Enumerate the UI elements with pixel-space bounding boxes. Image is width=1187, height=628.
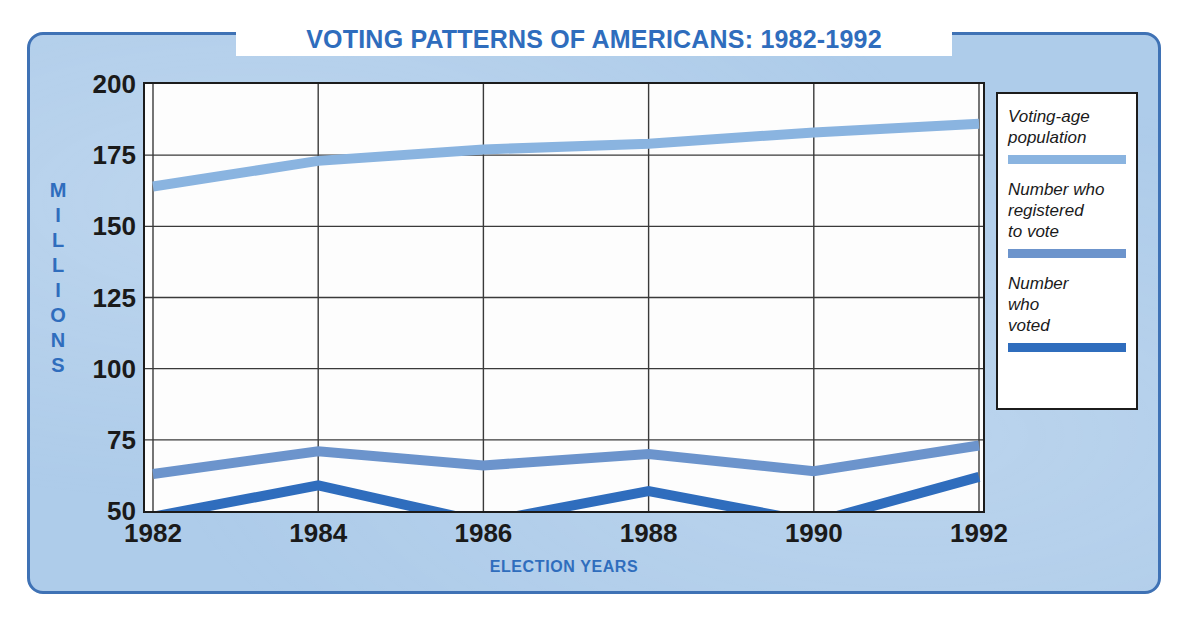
legend-color-swatch <box>1008 155 1126 164</box>
legend-label-line: voted <box>1008 315 1126 336</box>
y-axis-tick-label: 125 <box>74 282 136 313</box>
y-axis-title-letter: I <box>55 278 61 303</box>
legend-item-registered-to-vote[interactable]: Number who registered to vote <box>1008 179 1126 258</box>
x-axis-tick-label: 1982 <box>124 518 182 549</box>
y-axis-title-letter: L <box>52 253 64 278</box>
x-axis-tick-label: 1986 <box>454 518 512 549</box>
legend-label: Voting-age population <box>1008 106 1126 148</box>
legend-label: Number who registered to vote <box>1008 179 1126 242</box>
plot-area <box>143 82 985 513</box>
x-axis-tick-label: 1992 <box>950 518 1008 549</box>
y-axis-tick-label: 150 <box>74 211 136 242</box>
y-axis-tick-label: 100 <box>74 353 136 384</box>
legend-label-line: to vote <box>1008 221 1126 242</box>
data-series-group <box>153 124 979 511</box>
y-axis-title-letter: S <box>51 353 64 378</box>
x-axis-tick-labels: 198219841986198819901992 <box>143 518 985 554</box>
y-axis-title-letter: O <box>50 303 66 328</box>
chart-figure: VOTING PATTERNS OF AMERICANS: 1982-1992 … <box>0 0 1187 628</box>
y-axis-title-letter: L <box>52 228 64 253</box>
x-axis-tick-label: 1990 <box>785 518 843 549</box>
y-axis-tick-label: 200 <box>74 69 136 100</box>
chart-title-banner: VOTING PATTERNS OF AMERICANS: 1982-1992 <box>236 22 952 56</box>
y-axis-tick-label: 175 <box>74 140 136 171</box>
legend-label-line: registered <box>1008 200 1126 221</box>
chart-svg <box>145 84 983 511</box>
legend-color-swatch <box>1008 343 1126 352</box>
chart-legend: Voting-age population Number who registe… <box>996 92 1138 410</box>
legend-label-line: Number <box>1008 273 1126 294</box>
y-axis-title-letter: I <box>55 203 61 228</box>
legend-label-line: Voting-age <box>1008 106 1126 127</box>
y-axis-title-letter: M <box>50 178 67 203</box>
legend-label-line: who <box>1008 294 1126 315</box>
x-axis-title: ELECTION YEARS <box>143 558 985 576</box>
legend-label-line: Number who <box>1008 179 1126 200</box>
y-axis-tick-label: 75 <box>74 424 136 455</box>
legend-item-number-who-voted[interactable]: Number who voted <box>1008 273 1126 352</box>
x-axis-tick-label: 1984 <box>289 518 347 549</box>
legend-label: Number who voted <box>1008 273 1126 336</box>
data-line-series-1 <box>153 446 979 474</box>
data-line-series-2 <box>153 477 979 511</box>
y-axis-title-letter: N <box>51 328 65 353</box>
x-axis-tick-label: 1988 <box>620 518 678 549</box>
legend-label-line: population <box>1008 127 1126 148</box>
legend-item-voting-age-population[interactable]: Voting-age population <box>1008 106 1126 164</box>
legend-color-swatch <box>1008 249 1126 258</box>
page-title: VOTING PATTERNS OF AMERICANS: 1982-1992 <box>306 25 882 54</box>
